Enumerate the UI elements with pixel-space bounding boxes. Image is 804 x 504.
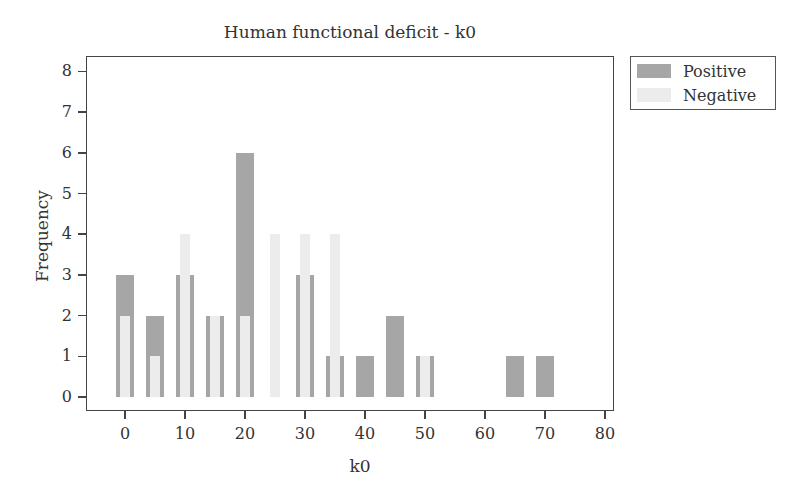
x-tick [124, 411, 126, 419]
y-tick-label: 2 [42, 306, 72, 325]
chart-title: Human functional deficit - k0 [86, 22, 614, 42]
plot-area [86, 56, 614, 411]
x-tick-label: 80 [585, 424, 625, 443]
y-tick [78, 71, 86, 73]
bar-negative [330, 234, 340, 397]
y-tick-label: 4 [42, 224, 72, 243]
x-tick-label: 30 [285, 424, 325, 443]
legend-label-positive: Positive [683, 62, 746, 81]
x-tick-label: 40 [345, 424, 385, 443]
bar-negative [210, 316, 220, 397]
bar-positive [356, 356, 374, 397]
bar-negative [180, 234, 190, 397]
y-tick [78, 396, 86, 398]
legend-swatch-negative [637, 88, 671, 102]
x-tick-label: 50 [405, 424, 445, 443]
bar-negative [270, 234, 280, 397]
bar-negative [240, 316, 250, 397]
y-tick [78, 111, 86, 113]
y-tick [78, 193, 86, 195]
legend-item-negative: Negative [637, 84, 756, 106]
y-tick-label: 6 [42, 143, 72, 162]
x-tick [244, 411, 246, 419]
bar-negative [300, 234, 310, 397]
bar-negative [420, 356, 430, 397]
legend-item-positive: Positive [637, 60, 746, 82]
x-tick [364, 411, 366, 419]
x-tick-label: 60 [465, 424, 505, 443]
x-tick-label: 0 [105, 424, 145, 443]
y-tick [78, 274, 86, 276]
y-tick-label: 1 [42, 346, 72, 365]
x-tick [424, 411, 426, 419]
x-tick [604, 411, 606, 419]
y-tick-label: 8 [42, 61, 72, 80]
bar-negative [120, 316, 130, 397]
legend-label-negative: Negative [683, 86, 756, 105]
x-tick [304, 411, 306, 419]
x-tick [484, 411, 486, 419]
y-tick [78, 356, 86, 358]
x-tick-label: 70 [525, 424, 565, 443]
x-axis-label: k0 [330, 456, 390, 476]
x-tick [544, 411, 546, 419]
y-tick-label: 0 [42, 387, 72, 406]
bar-positive [386, 316, 404, 397]
y-tick [78, 315, 86, 317]
x-tick [184, 411, 186, 419]
y-tick-label: 7 [42, 102, 72, 121]
legend-swatch-positive [637, 64, 671, 78]
x-tick-label: 10 [165, 424, 205, 443]
y-tick [78, 233, 86, 235]
bar-positive [506, 356, 524, 397]
bar-positive [536, 356, 554, 397]
bar-negative [150, 356, 160, 397]
legend: Positive Negative [630, 56, 776, 110]
y-tick-label: 5 [42, 184, 72, 203]
y-tick-label: 3 [42, 265, 72, 284]
x-tick-label: 20 [225, 424, 265, 443]
y-tick [78, 152, 86, 154]
